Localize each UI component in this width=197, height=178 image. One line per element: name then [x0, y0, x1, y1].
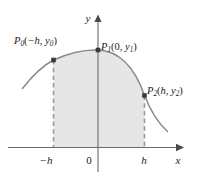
y-axis-arrow-icon: [94, 15, 101, 23]
point-marker-p1: [96, 48, 101, 53]
p0-coord-x: −h: [28, 35, 40, 46]
y-axis-label: y: [85, 12, 91, 24]
point-marker-p0: [51, 58, 56, 63]
origin-label: 0: [86, 154, 92, 166]
point-label-p2: P2(h, y2): [146, 85, 183, 98]
parabolic-segment-diagram: P0(−h, y0) P1(0, y1) P2(h, y2) −h 0 h x …: [0, 0, 197, 178]
p2-close-paren: ): [179, 85, 183, 97]
x-tick-label-h: h: [141, 154, 147, 166]
p1-close-paren: ): [133, 41, 137, 53]
x-axis-arrow-icon: [176, 144, 184, 151]
point-label-p0: P0(−h, y0): [13, 35, 57, 48]
figure-container: P0(−h, y0) P1(0, y1) P2(h, y2) −h 0 h x …: [0, 0, 197, 178]
shaded-area-region: [54, 50, 145, 148]
p0-close-paren: ): [53, 35, 57, 47]
x-tick-label-minus-h: −h: [40, 154, 53, 166]
x-axis-label: x: [175, 154, 181, 166]
